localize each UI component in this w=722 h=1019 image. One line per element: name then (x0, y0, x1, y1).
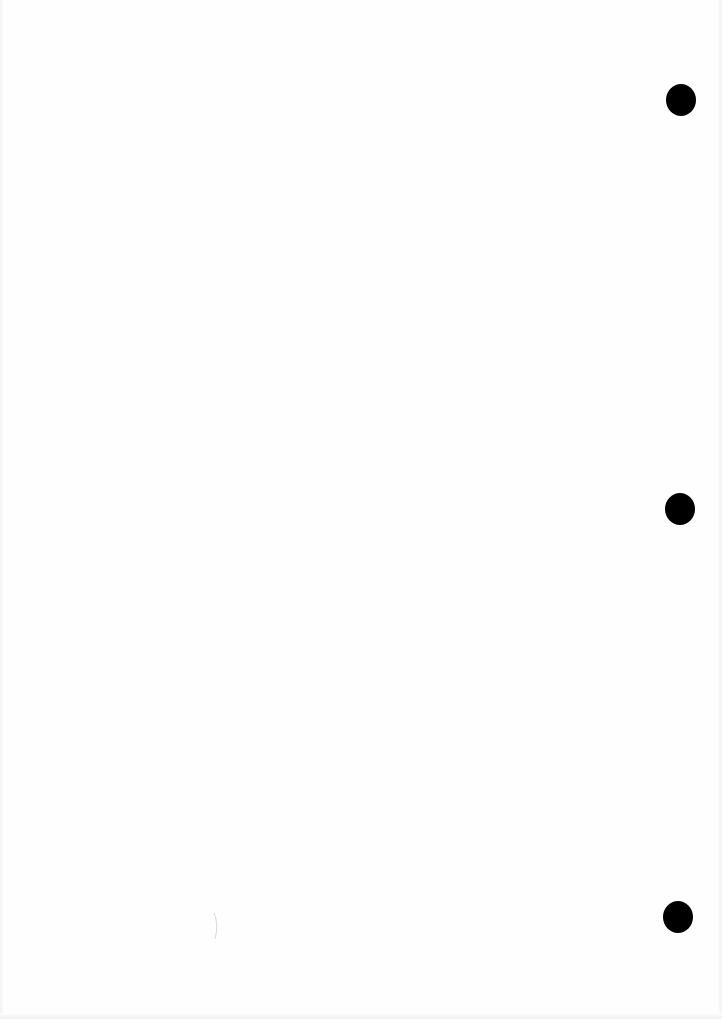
scanned-page (0, 0, 722, 1019)
page-edge-left (0, 0, 4, 1019)
page-edge-bottom (0, 1013, 722, 1019)
punch-hole-bottom (663, 901, 693, 933)
punch-hole-middle (665, 493, 695, 525)
punch-hole-top (666, 84, 696, 116)
page-edge-right (717, 0, 722, 1019)
faint-scan-mark (212, 912, 220, 940)
